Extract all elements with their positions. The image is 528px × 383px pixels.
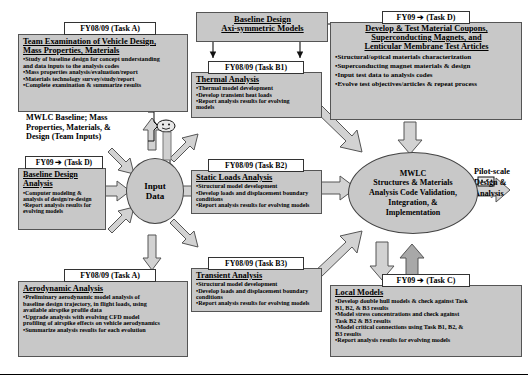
task-b2-bullet-list: Structural model developmentDevelop load… — [196, 183, 318, 209]
mwlc-node[interactable]: MWLC Structures & Materials Analysis Cod… — [348, 152, 478, 234]
input-data-line2: Data — [144, 191, 166, 201]
task-b1-tag[interactable]: FY08/09 (Task B1) — [208, 61, 304, 74]
arrow-materials-to-mwlc — [398, 122, 422, 154]
task-b2-static-box[interactable]: Static Loads Analysis Structural model d… — [191, 170, 322, 214]
bottom-divider — [0, 374, 528, 375]
bullet-item: evolving models — [23, 208, 102, 214]
bullet-item: Structural/optical materials characteriz… — [335, 53, 518, 62]
mwlc-line4: Integration, & — [369, 198, 457, 208]
team-inputs-line1: MWLC Baseline; Mass — [26, 113, 152, 123]
task-d-materials-bullet-list: Structural/optical materials characteriz… — [335, 53, 518, 89]
smiley-icon-team-inputs — [157, 120, 175, 132]
task-b3-tag[interactable]: FY08/09 (Task B3) — [208, 257, 304, 270]
task-b3-bullet-list: Structural model developmentDevelop load… — [196, 281, 318, 307]
arrow-inputdata-down — [143, 235, 161, 270]
task-d-baseline-bullet-list: Computer modeling &analysis of design/re… — [23, 190, 102, 215]
mwlc-line2: Structures & Materials — [369, 178, 457, 188]
task-b1-thermal-box[interactable]: Thermal Analysis Thermal model developme… — [191, 72, 322, 118]
bullet-item: models — [196, 104, 318, 110]
bullet-item: Summarize analysis results for each evol… — [23, 327, 184, 334]
bullet-item: Report analysis results for evolving mod… — [196, 300, 318, 306]
task-b2-title: Static Loads Analysis — [196, 173, 318, 182]
baseline-models-line2: Axi-symmetric Models — [201, 24, 324, 33]
bullet-item: Report analysis results for evolving mod… — [196, 202, 318, 208]
task-c-tag[interactable]: FY09 ➔ (Task C) — [382, 274, 470, 287]
task-a-bullet-list: Study of baseline design for concept und… — [23, 56, 184, 89]
task-a-title-line1: Team Examination of Vehicle Design, — [23, 37, 184, 46]
team-inputs-line2: Properties, Materials, & — [26, 123, 152, 133]
task-d-baseline-box[interactable]: Baseline Design Analysis Computer modeli… — [18, 168, 106, 230]
bullet-item: Report analysis results for evolving mod… — [335, 337, 518, 344]
task-d-baseline-tag[interactable]: FY09 ➔ (Task D) — [25, 156, 103, 169]
team-inputs-line3: Design (Team Inputs) — [26, 132, 152, 142]
arrow-inputdata-upright — [170, 134, 198, 162]
callout-post-team-inputs — [163, 132, 171, 160]
arrow-taska-to-inputdata — [108, 148, 134, 174]
pilot-scale-label: Pilot-scale Design & Analysis — [474, 166, 528, 199]
task-b3-title: Transient Analysis — [196, 271, 318, 280]
task-a-aero-bullet-list: Preliminary aerodynamic model analysis o… — [23, 294, 184, 333]
arrow-inputdata-downright — [170, 219, 198, 247]
mwlc-line1: MWLC — [369, 169, 457, 179]
task-c-local-box[interactable]: Local Models Develop double hull models … — [330, 285, 522, 357]
team-inputs-note: MWLC Baseline; Mass Properties, Material… — [26, 113, 152, 142]
arrow-aero-to-inputdata — [108, 207, 134, 233]
task-d-materials-tag[interactable]: FY09 ➔ (Task D) — [382, 11, 470, 24]
task-d-baseline-title-line2: Analysis — [23, 180, 102, 189]
input-data-node[interactable]: Input Data — [126, 158, 184, 224]
task-a-aero-title: Aerodynamic Analysis — [23, 284, 184, 293]
task-a-vehicle-tag[interactable]: FY08/09 (Task A) — [64, 22, 156, 35]
bullet-item: Complete examination & summarize results — [23, 82, 184, 89]
bullet-item: Input test data to analysis codes — [335, 71, 518, 80]
task-a-vehicle-box[interactable]: Team Examination of Vehicle Design, Mass… — [18, 34, 188, 112]
pilot-scale-line2: Design & — [474, 177, 528, 188]
mwlc-line3: Analysis Code Validation, — [369, 188, 457, 198]
task-d-materials-title-line3: Lenticular Membrane Test Articles — [335, 43, 518, 52]
input-data-line1: Input — [144, 181, 166, 191]
task-b2-tag[interactable]: FY08/09 (Task B2) — [208, 159, 304, 172]
bullet-item: Evolve test objectives/articles & repeat… — [335, 80, 518, 89]
task-c-bullet-list: Develop double hull models & check again… — [335, 298, 518, 344]
task-a-aero-box[interactable]: Aerodynamic Analysis Preliminary aerodyn… — [18, 281, 188, 357]
task-b3-transient-box[interactable]: Transient Analysis Structural model deve… — [191, 268, 322, 312]
mwlc-line5: Implementation — [369, 208, 457, 218]
task-a-title-line2: Mass Properties, Materials — [23, 46, 184, 55]
pilot-scale-line1: Pilot-scale — [474, 166, 528, 177]
pilot-scale-line3: Analysis — [474, 188, 528, 199]
task-b1-bullet-list: Thermal model developmentDevelop transie… — [196, 85, 318, 111]
bullet-item: Superconducting magnet materials & desig… — [335, 62, 518, 71]
task-c-title: Local Models — [335, 288, 518, 297]
task-b1-title: Thermal Analysis — [196, 75, 318, 84]
task-a-aero-tag[interactable]: FY08/09 (Task A) — [64, 269, 156, 282]
diagram-canvas: Baseline Design Axi-symmetric Models Tea… — [0, 0, 528, 383]
task-d-materials-box[interactable]: Develop & Test Material Coupons, Superco… — [330, 22, 522, 120]
baseline-models-box[interactable]: Baseline Design Axi-symmetric Models — [196, 12, 328, 42]
